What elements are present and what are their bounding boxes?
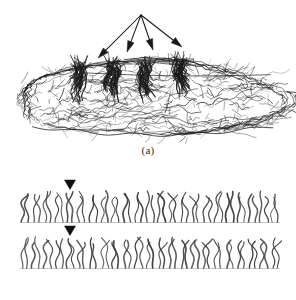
fleece-hair [56, 80, 65, 89]
fleece-hair [172, 84, 175, 95]
fiber [116, 198, 119, 223]
fiber [43, 241, 49, 268]
panel-b-fiber-rows: (b) [0, 168, 296, 300]
fiber [93, 244, 96, 268]
fleece-hair [206, 114, 209, 120]
fleece-hair [204, 123, 209, 125]
fiber [203, 198, 209, 222]
fleece-hair [59, 88, 64, 100]
fleece-hair [79, 118, 82, 120]
fleece-hair [70, 103, 74, 107]
fleece-hair [207, 118, 210, 120]
fleece-hair [157, 136, 165, 144]
fleece-hair [190, 116, 192, 119]
fleece-interior-stroke [117, 106, 141, 110]
fiber [231, 192, 234, 222]
arrow-head [127, 41, 134, 53]
fleece-outline-stroke [287, 92, 296, 107]
staple-column-2 [101, 52, 124, 104]
fleece-hair [137, 108, 143, 110]
fiber [259, 191, 261, 222]
fiber [240, 242, 244, 268]
fiber [248, 194, 251, 222]
fiber [252, 196, 257, 222]
arrow-shaft [104, 15, 141, 52]
fiber [35, 237, 40, 268]
fiber [60, 239, 63, 268]
fleece-hair [63, 131, 68, 137]
fiber [90, 238, 92, 268]
fleece-hair [180, 136, 186, 142]
arrow-2 [127, 15, 141, 52]
fleece-hair [224, 102, 225, 110]
fleece-interior-stroke [142, 96, 168, 106]
fleece-hair [66, 92, 68, 98]
fleece-hair [234, 64, 237, 69]
fleece-interior-stroke [83, 123, 122, 129]
fleece-hair [223, 58, 231, 67]
fiber [172, 238, 177, 269]
fleece-hair [160, 103, 162, 108]
fiber [274, 195, 278, 223]
fleece-hair [145, 137, 150, 143]
fleece-hair [60, 75, 62, 84]
arrow-shaft [130, 15, 141, 44]
fleece-hair [210, 94, 221, 99]
fiber [193, 194, 199, 222]
fiber [226, 193, 230, 222]
fleece-hair [276, 85, 277, 90]
fleece-outline-stroke [18, 92, 22, 104]
fiber [106, 191, 108, 222]
fleece-interior-stroke [119, 107, 154, 117]
fleece-interior-stroke [260, 104, 284, 108]
fiber-row-1 [20, 180, 280, 223]
fleece-hair [238, 106, 239, 111]
fleece-outline-stroke [30, 104, 35, 120]
fiber [182, 198, 188, 222]
fiber [260, 243, 264, 268]
fleece-hair [124, 65, 125, 71]
fleece-hair [243, 103, 245, 107]
fiber [138, 238, 143, 268]
fleece-hair [36, 118, 41, 122]
fiber [134, 237, 140, 268]
fleece-hair [281, 101, 282, 105]
fiber [111, 197, 115, 222]
fiber [195, 241, 200, 268]
fleece-hair [36, 96, 39, 101]
fleece-hair [42, 67, 52, 73]
fleece-hair [49, 99, 50, 103]
fleece-hair [262, 90, 271, 92]
fiber [55, 196, 59, 222]
fleece-hair [198, 104, 200, 112]
fleece-interior-stroke [197, 98, 227, 105]
fleece-hair [101, 86, 102, 91]
fleece-hair [52, 119, 63, 124]
fleece-illustration [0, 0, 296, 144]
staple-tip-hair [150, 56, 151, 64]
fleece-hair [115, 110, 116, 122]
fleece-hair [189, 120, 191, 126]
fleece-hair [251, 83, 252, 94]
fleece-hair [84, 91, 91, 93]
fiber [47, 240, 53, 268]
arrow-group [98, 15, 182, 58]
fleece-hair [186, 102, 193, 109]
fiber [31, 243, 35, 268]
fiber [151, 196, 154, 222]
fleece-hair [150, 110, 153, 111]
fiber-row-2 [20, 226, 282, 269]
fiber [219, 193, 223, 222]
fiber [265, 197, 269, 222]
arrow-1 [98, 15, 141, 58]
fiber [206, 196, 212, 222]
fleece-hair [208, 59, 211, 65]
fiber [80, 197, 84, 223]
fleece-hair [21, 72, 28, 83]
panel-a-fleece: (a) [0, 0, 296, 168]
fleece-hair [44, 119, 50, 121]
fiber [56, 241, 60, 268]
fleece-hair [209, 119, 213, 120]
fleece-interior-stroke [40, 108, 53, 110]
fleece-hair [233, 114, 235, 120]
